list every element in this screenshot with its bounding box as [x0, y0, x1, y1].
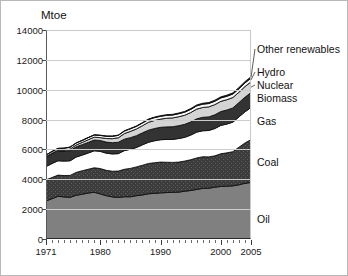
- series-label-other-renewables[interactable]: Other renewables: [257, 43, 340, 55]
- series-label-nuclear[interactable]: Nuclear: [257, 79, 293, 91]
- leader-line: [251, 85, 255, 87]
- chart-figure: Mtoe 02000400060008000100001200014000 19…: [0, 0, 348, 276]
- series-label-hydro[interactable]: Hydro: [257, 66, 285, 78]
- series-label-oil[interactable]: Oil: [257, 213, 270, 225]
- series-label-biomass[interactable]: Biomass: [257, 92, 297, 104]
- series-label-gas[interactable]: Gas: [257, 115, 276, 127]
- series-label-coal[interactable]: Coal: [257, 156, 279, 168]
